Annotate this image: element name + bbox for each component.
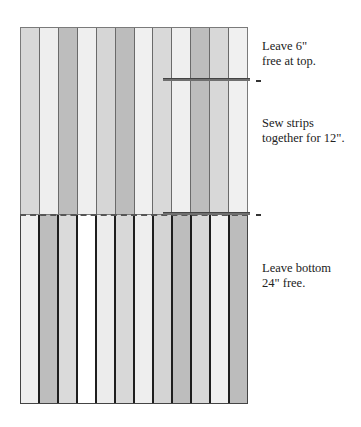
free-strips-panel <box>20 215 248 404</box>
top-marker-tick <box>256 80 261 82</box>
annotation-top: Leave 6" free at top. <box>262 39 316 69</box>
annotation-top-line-1: Leave 6" <box>262 39 316 54</box>
free-strip-12 <box>230 215 247 403</box>
sewn-strip-7 <box>135 28 154 214</box>
bottom-marker-tick <box>256 214 261 216</box>
free-strip-4 <box>78 215 97 403</box>
sewn-strip-11 <box>210 28 229 214</box>
top-marker-line <box>163 78 250 81</box>
annotation-bottom: Leave bottom 24" free. <box>262 261 331 291</box>
sewn-strip-6 <box>116 28 135 214</box>
sewn-strip-5 <box>97 28 116 214</box>
annotation-bottom-line-2: 24" free. <box>262 276 331 291</box>
sewn-strip-8 <box>153 28 172 214</box>
free-strip-1 <box>21 215 40 403</box>
free-strip-3 <box>59 215 78 403</box>
bottom-marker-line <box>163 212 250 215</box>
sewn-strip-3 <box>59 28 78 214</box>
annotation-middle-line-1: Sew strips <box>262 116 345 131</box>
free-strip-9 <box>173 215 192 403</box>
free-strip-10 <box>192 215 211 403</box>
sewn-strip-4 <box>78 28 97 214</box>
annotation-bottom-line-1: Leave bottom <box>262 261 331 276</box>
sewn-strip-1 <box>21 28 40 214</box>
sewn-strip-10 <box>191 28 210 214</box>
free-strip-6 <box>116 215 135 403</box>
sewn-strip-12 <box>229 28 247 214</box>
sewn-strip-9 <box>172 28 191 214</box>
free-strip-5 <box>97 215 116 403</box>
annotation-middle-line-2: together for 12". <box>262 131 345 146</box>
free-strip-8 <box>154 215 173 403</box>
free-strip-7 <box>135 215 154 403</box>
annotation-top-line-2: free at top. <box>262 54 316 69</box>
free-strip-11 <box>211 215 230 403</box>
sewn-strip-2 <box>40 28 59 214</box>
sewn-strips-panel <box>20 27 248 215</box>
annotation-middle: Sew strips together for 12". <box>262 116 345 146</box>
free-strip-2 <box>40 215 59 403</box>
